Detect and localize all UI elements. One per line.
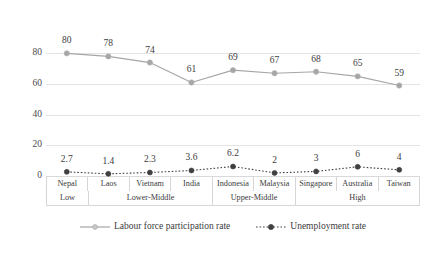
x-group-label: Lower-Middle xyxy=(88,191,212,206)
data-point-marker xyxy=(106,54,111,59)
data-point-marker xyxy=(231,164,236,169)
data-point-marker xyxy=(397,167,402,172)
data-label: 69 xyxy=(228,53,238,63)
data-point-marker xyxy=(189,80,194,85)
data-point-marker xyxy=(355,74,360,79)
data-label: 6 xyxy=(355,150,360,160)
y-tick-label: 60 xyxy=(2,79,42,89)
x-group-label: Low xyxy=(46,191,88,206)
line-marker-dark-icon xyxy=(256,222,286,232)
data-label: 59 xyxy=(394,69,404,79)
x-category-label: Vietnam xyxy=(129,177,170,191)
data-label: 65 xyxy=(353,59,363,69)
x-category-label: Singapore xyxy=(295,177,336,191)
plot-area: 8078746169676865592.71.42.33.66.22364 xyxy=(46,38,420,176)
data-point-marker xyxy=(272,71,277,76)
data-label: 74 xyxy=(145,46,155,56)
line-marker-light-icon xyxy=(80,222,110,232)
chart-legend: Labour force participation rateUnemploym… xyxy=(0,222,446,232)
data-point-marker xyxy=(272,170,277,175)
data-point-marker xyxy=(314,169,319,174)
y-axis: 020406080 xyxy=(0,38,42,176)
x-category-label: Laos xyxy=(87,177,128,191)
x-category-label: Malaysia xyxy=(253,177,294,191)
data-label: 3.6 xyxy=(186,153,198,163)
data-label: 1.4 xyxy=(102,157,114,167)
data-label: 4 xyxy=(397,153,402,163)
legend-item[interactable]: Labour force participation rate xyxy=(80,222,230,232)
line-chart: 020406080 8078746169676865592.71.42.33.6… xyxy=(0,0,446,254)
data-label: 3 xyxy=(314,154,319,164)
data-point-marker xyxy=(147,60,152,65)
y-tick-label: 20 xyxy=(2,140,42,150)
data-label: 68 xyxy=(311,55,321,65)
data-label: 2 xyxy=(272,156,277,166)
data-label: 80 xyxy=(62,36,72,46)
x-group-label: High xyxy=(295,191,420,206)
data-label: 2.7 xyxy=(61,155,73,165)
x-axis: NepalLaosVietnamIndiaIndonesiaMalaysiaSi… xyxy=(46,177,420,206)
data-point-marker xyxy=(64,169,69,174)
data-label: 6.2 xyxy=(227,149,239,159)
y-tick-label: 80 xyxy=(2,48,42,58)
data-point-marker xyxy=(147,170,152,175)
legend-item[interactable]: Unemployment rate xyxy=(256,222,366,232)
legend-label: Unemployment rate xyxy=(290,222,366,232)
x-group-label: Upper-Middle xyxy=(212,191,295,206)
y-tick-label: 0 xyxy=(2,171,42,181)
data-point-marker xyxy=(230,68,235,73)
x-category-label: Nepal xyxy=(46,177,87,191)
x-group-row: LowLower-MiddleUpper-MiddleHigh xyxy=(46,191,420,206)
data-point-marker xyxy=(64,51,69,56)
x-category-label: Taiwan xyxy=(378,177,420,191)
data-point-marker xyxy=(355,164,360,169)
data-point-marker xyxy=(313,69,318,74)
y-tick-label: 40 xyxy=(2,110,42,120)
x-category-row: NepalLaosVietnamIndiaIndonesiaMalaysiaSi… xyxy=(46,177,420,191)
data-label: 61 xyxy=(187,65,197,75)
x-category-label: Australia xyxy=(336,177,377,191)
data-point-marker xyxy=(397,83,402,88)
data-point-marker xyxy=(189,168,194,173)
data-label: 67 xyxy=(270,56,280,66)
data-label: 78 xyxy=(104,39,114,49)
x-category-label: Indonesia xyxy=(212,177,253,191)
data-label: 2.3 xyxy=(144,155,156,165)
legend-label: Labour force participation rate xyxy=(114,222,230,232)
data-point-marker xyxy=(106,171,111,176)
x-category-label: India xyxy=(170,177,211,191)
